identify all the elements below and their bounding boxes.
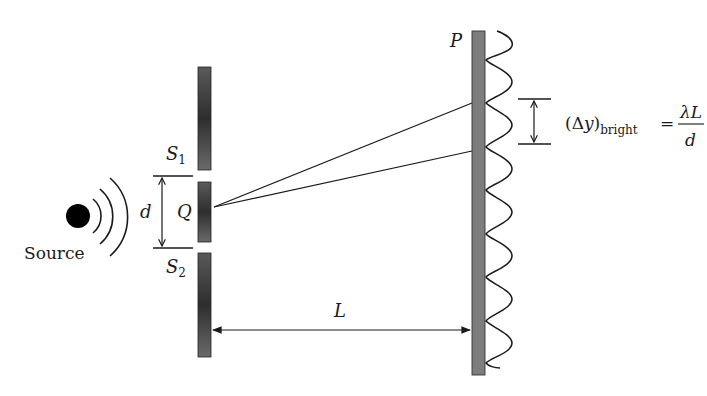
barrier-top [198, 67, 211, 170]
formula-numerator: λL [679, 102, 702, 122]
wave-arc-2 [100, 189, 113, 244]
screen [472, 31, 485, 375]
ray-upper [214, 103, 472, 207]
slit-separation-dimension: d Q [140, 176, 193, 248]
formula-denominator: d [685, 130, 696, 150]
source-dot [66, 204, 90, 228]
barrier-middle [198, 182, 211, 242]
source-label: Source [24, 243, 85, 263]
fringe-spacing-dimension [518, 99, 551, 144]
source: Source [24, 178, 128, 263]
ray-lower [214, 151, 472, 207]
screen-label: P [449, 30, 463, 51]
formula-lhs: (Δy)bright [565, 113, 638, 137]
d-label: d [140, 201, 152, 222]
l-label: L [333, 300, 346, 321]
slit1-label: S1 [166, 143, 186, 167]
fringe-spacing-formula: (Δy)bright = λL d [565, 102, 704, 150]
double-slit-diagram: Source S1 S2 d Q P (Δy)bright = λL d [0, 0, 707, 396]
wave-arc-1 [93, 199, 101, 233]
intensity-pattern [486, 31, 512, 368]
barrier-bottom [198, 253, 211, 357]
formula-equals: = [660, 113, 674, 133]
q-label: Q [177, 201, 192, 222]
slit-barrier [198, 67, 211, 357]
slit2-label: S2 [166, 256, 186, 280]
distance-dimension: L [213, 300, 470, 330]
